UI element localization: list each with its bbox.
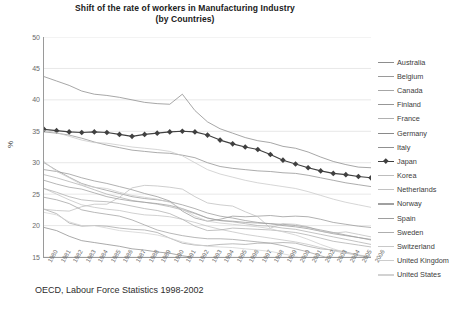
x-tick-1995: 1995 (235, 248, 248, 263)
legend-label: Germany (397, 129, 427, 138)
legend-item-united-kingdom[interactable]: United Kingdom (378, 254, 466, 268)
legend-item-sweden[interactable]: Sweden (378, 225, 466, 239)
legend-swatch-icon (378, 114, 394, 123)
x-tick-1985: 1985 (109, 248, 122, 263)
x-tick-1993: 1993 (210, 248, 223, 263)
x-tick-1996: 1996 (247, 248, 260, 263)
x-tick-2002: 2002 (323, 248, 336, 263)
x-tick-1994: 1994 (222, 248, 235, 263)
x-tick-1998: 1998 (272, 248, 285, 263)
legend-swatch-icon (378, 86, 394, 95)
x-tick-2003: 2003 (335, 248, 348, 263)
legend-label: Canada (397, 86, 423, 95)
x-tick-1982: 1982 (71, 248, 84, 263)
legend-swatch-icon (378, 242, 394, 251)
legend-label: Finland (397, 100, 421, 109)
x-tick-1981: 1981 (59, 248, 72, 263)
x-tick-1997: 1997 (260, 248, 273, 263)
x-tick-1989: 1989 (159, 248, 172, 263)
legend-swatch-icon (378, 58, 394, 67)
legend-item-france[interactable]: France (378, 112, 466, 126)
x-tick-1983: 1983 (84, 248, 97, 263)
x-tick-2000: 2000 (298, 248, 311, 263)
x-tick-2004: 2004 (348, 248, 361, 263)
legend-swatch-icon (378, 143, 394, 152)
legend-label: United States (397, 270, 441, 279)
x-tick-1980: 1980 (46, 248, 59, 263)
x-tick-1991: 1991 (184, 248, 197, 263)
x-tick-1999: 1999 (285, 248, 298, 263)
legend-label: Korea (397, 171, 416, 180)
legend-label: France (397, 114, 420, 123)
legend-item-netherlands[interactable]: Netherlands (378, 183, 466, 197)
legend-label: Sweden (397, 228, 423, 237)
legend-swatch-icon (378, 100, 394, 109)
legend-label: Switzerland (397, 242, 435, 251)
legend-item-australia[interactable]: Australia (378, 55, 466, 69)
legend-swatch-icon (378, 214, 394, 223)
chart-container: Shift of the rate of workers in Manufact… (0, 0, 466, 310)
legend-swatch-icon (378, 199, 394, 208)
legend-swatch-icon (378, 228, 394, 237)
legend-swatch-icon (378, 129, 394, 138)
legend-label: Japan (397, 157, 417, 166)
legend-item-japan[interactable]: Japan (378, 154, 466, 168)
legend-label: Netherlands (397, 185, 436, 194)
legend-swatch-icon (378, 185, 394, 194)
legend-item-italy[interactable]: Italy (378, 140, 466, 154)
legend-item-germany[interactable]: Germany (378, 126, 466, 140)
legend-swatch-icon (378, 270, 394, 279)
legend-item-switzerland[interactable]: Switzerland (378, 239, 466, 253)
x-tick-1986: 1986 (121, 248, 134, 263)
x-tick-1984: 1984 (96, 248, 109, 263)
x-tick-2001: 2001 (310, 248, 323, 263)
legend-item-finland[interactable]: Finland (378, 98, 466, 112)
legend-item-belgium[interactable]: Belgium (378, 69, 466, 83)
x-tick-2005: 2005 (360, 248, 373, 263)
legend-swatch-icon (378, 157, 394, 166)
legend-label: Norway (397, 199, 422, 208)
chart-legend: AustraliaBelgiumCanadaFinlandFranceGerma… (378, 55, 466, 282)
legend-item-norway[interactable]: Norway (378, 197, 466, 211)
x-tick-1990: 1990 (172, 248, 185, 263)
legend-swatch-icon (378, 256, 394, 265)
x-tick-1992: 1992 (197, 248, 210, 263)
chart-source-caption: OECD, Labour Force Statistics 1998-2002 (35, 285, 204, 295)
legend-item-spain[interactable]: Spain (378, 211, 466, 225)
legend-label: Australia (397, 58, 425, 67)
legend-swatch-icon (378, 171, 394, 180)
legend-item-united-states[interactable]: United States (378, 268, 466, 282)
legend-label: Belgium (397, 72, 423, 81)
x-tick-1987: 1987 (134, 248, 147, 263)
legend-item-korea[interactable]: Korea (378, 169, 466, 183)
legend-item-canada[interactable]: Canada (378, 83, 466, 97)
legend-label: Spain (397, 214, 416, 223)
legend-label: United Kingdom (397, 256, 449, 265)
legend-label: Italy (397, 143, 410, 152)
legend-swatch-icon (378, 72, 394, 81)
x-tick-1988: 1988 (147, 248, 160, 263)
